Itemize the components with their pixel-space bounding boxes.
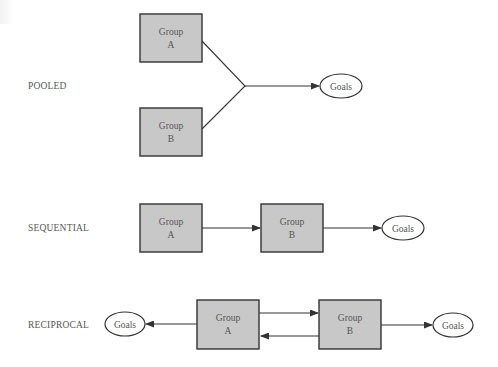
group-title: Group <box>280 217 305 227</box>
group-title: Group <box>159 121 184 131</box>
sequential-group-a: Group A <box>140 204 202 252</box>
row-sequential: SEQUENTIAL Group A Group B Goals <box>28 204 424 252</box>
group-letter: A <box>225 326 232 336</box>
row-label-pooled: POOLED <box>28 81 67 91</box>
sequential-group-b: Group B <box>261 204 323 252</box>
goals-label: Goals <box>392 224 414 234</box>
reciprocal-group-b: Group B <box>319 300 381 349</box>
row-pooled: POOLED Group A Group B Goals <box>28 14 362 156</box>
reciprocal-goals-right: Goals <box>433 313 473 337</box>
group-letter: A <box>168 40 175 50</box>
group-title: Group <box>338 313 363 323</box>
row-label-sequential: SEQUENTIAL <box>28 223 89 233</box>
goals-label: Goals <box>114 320 136 330</box>
group-letter: A <box>168 230 175 240</box>
pooled-group-a: Group A <box>140 14 202 62</box>
group-title: Group <box>159 217 184 227</box>
goals-label: Goals <box>330 82 352 92</box>
goals-label: Goals <box>442 321 464 331</box>
row-label-reciprocal: RECIPROCAL <box>28 320 89 330</box>
reciprocal-group-a: Group A <box>197 300 259 349</box>
group-title: Group <box>216 313 241 323</box>
sequential-goals: Goals <box>382 216 424 240</box>
reciprocal-goals-left: Goals <box>105 312 145 336</box>
interdependence-diagram: POOLED Group A Group B Goals SEQUENTIAL … <box>0 0 498 367</box>
row-reciprocal: RECIPROCAL Goals Group A Group B Goals <box>28 300 473 349</box>
group-title: Group <box>159 27 184 37</box>
pooled-goals: Goals <box>320 74 362 98</box>
pooled-merge-lines <box>202 41 245 129</box>
group-letter: B <box>347 326 353 336</box>
pooled-group-b: Group B <box>140 108 202 156</box>
group-letter: B <box>168 134 174 144</box>
group-letter: B <box>289 230 295 240</box>
